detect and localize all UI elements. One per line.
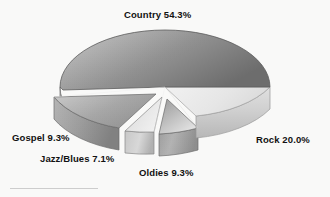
pie-3d-body (54, 30, 270, 156)
pie-label-rock: Rock 20.0% (256, 134, 310, 145)
pie-label-gospel: Gospel 9.3% (12, 132, 70, 143)
slice-side-jazz (125, 131, 154, 154)
scan-edge-artifact (10, 188, 98, 189)
pie-chart-figure: Country 54.3% Rock 20.0% Gospel 9.3% Jaz… (0, 0, 330, 197)
pie-label-jazz-blues: Jazz/Blues 7.1% (40, 153, 114, 164)
pie-label-oldies: Oldies 9.3% (139, 167, 193, 178)
pie-label-country: Country 54.3% (124, 9, 191, 20)
slice-top-country (60, 30, 270, 90)
